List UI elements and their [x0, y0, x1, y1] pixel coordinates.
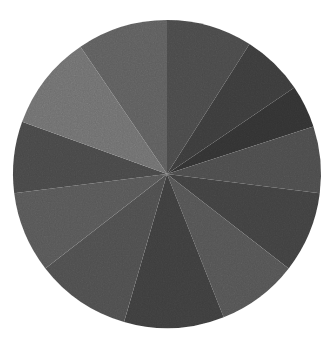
pie-chart-svg	[0, 0, 336, 346]
pie-chart-figure	[0, 0, 336, 346]
pie-slice-group	[13, 20, 321, 328]
